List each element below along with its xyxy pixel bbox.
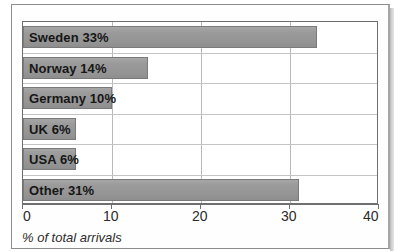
bar-row: Sweden 33% (23, 22, 377, 53)
bar-row: Norway 14% (23, 53, 377, 84)
bar-label-germany: Germany 10% (29, 92, 116, 105)
plot-area: Sweden 33%Norway 14%Germany 10%UK 6%USA … (22, 21, 378, 204)
tick-label-0: 0 (23, 209, 31, 223)
x-axis-caption: % of total arrivals (22, 231, 122, 244)
tick-label-20: 20 (192, 209, 208, 223)
bar-label-uk: UK 6% (29, 122, 71, 135)
bar-label-usa: USA 6% (29, 153, 79, 166)
bar-row: USA 6% (23, 144, 377, 175)
bar-label-other: Other 31% (29, 183, 94, 196)
bar-row: Germany 10% (23, 83, 377, 114)
figure-container: Sweden 33%Norway 14%Germany 10%UK 6%USA … (0, 0, 402, 252)
tick-label-10: 10 (103, 209, 119, 223)
bar-label-sweden: Sweden 33% (29, 31, 109, 44)
bar-chart: Sweden 33%Norway 14%Germany 10%UK 6%USA … (0, 0, 402, 252)
tick-label-40: 40 (363, 209, 379, 223)
bar-row: UK 6% (23, 114, 377, 145)
bar-row: Other 31% (23, 175, 377, 206)
bar-label-norway: Norway 14% (29, 61, 107, 74)
tick-label-30: 30 (281, 209, 297, 223)
